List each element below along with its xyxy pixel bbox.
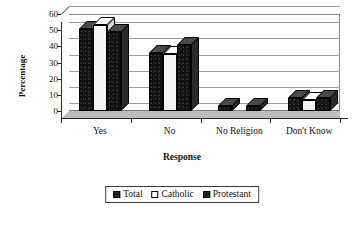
bar-protestant-don-t-know xyxy=(316,98,330,111)
bar-group xyxy=(79,25,121,111)
x-axis-tick-label: Yes xyxy=(93,126,107,137)
x-axis-tick-labels: YesNoNo ReligionDon't Know xyxy=(61,126,348,140)
y-axis-tick-labels: 0102030405060 xyxy=(36,10,58,124)
x-axis-tick-mark xyxy=(201,119,202,123)
plot-area xyxy=(61,14,340,119)
y-axis-tick-label: 30 xyxy=(36,58,58,67)
bar-total-no xyxy=(149,53,163,111)
x-axis-tick-mark xyxy=(270,119,271,123)
gridline xyxy=(69,6,340,7)
bar-group xyxy=(218,106,260,111)
bar-catholic-yes xyxy=(93,25,107,111)
legend-swatch-icon xyxy=(113,191,120,198)
bar-face xyxy=(316,98,330,111)
bar-face xyxy=(218,106,232,111)
legend-swatch-icon xyxy=(152,191,159,198)
bar-groups xyxy=(61,14,340,119)
bar-face xyxy=(107,32,121,111)
bar-group xyxy=(149,45,191,111)
legend-item: Catholic xyxy=(152,189,194,199)
bar-chart: Percentage 0102030405060 YesNoNo Religio… xyxy=(0,0,364,225)
bar-side xyxy=(191,37,199,111)
bar-protestant-yes xyxy=(107,32,121,111)
y-axis-tick-label: 20 xyxy=(36,74,58,83)
bar-total-don-t-know xyxy=(288,98,302,111)
bar-total-no-religion xyxy=(218,106,232,111)
x-axis-tick-label: Don't Know xyxy=(286,126,332,137)
x-axis-tick-mark xyxy=(61,119,62,123)
x-axis-tick-mark xyxy=(131,119,132,123)
bar-catholic-no-religion xyxy=(232,111,246,112)
bar-side xyxy=(121,24,129,111)
x-axis-title: Response xyxy=(0,152,364,162)
y-axis-tick-label: 60 xyxy=(36,10,58,19)
bar-face xyxy=(93,25,107,111)
y-axis-tick-label: 10 xyxy=(36,90,58,99)
bar-face xyxy=(79,29,93,111)
legend-item: Total xyxy=(113,189,142,199)
bar-catholic-don-t-know xyxy=(302,100,316,111)
bar-face xyxy=(288,98,302,111)
x-axis-tick-label: No Religion xyxy=(216,126,263,137)
bar-protestant-no xyxy=(177,45,191,111)
legend-label: Catholic xyxy=(162,189,194,199)
y-axis-title: Percentage xyxy=(14,36,30,116)
x-axis-tick-label: No xyxy=(164,126,176,137)
bar-protestant-no-religion xyxy=(246,106,260,111)
chart-legend: TotalCatholicProtestant xyxy=(105,186,259,203)
y-axis-tick-label: 50 xyxy=(36,26,58,35)
bar-face xyxy=(149,53,163,111)
bar-face xyxy=(177,45,191,111)
y-axis-tick-label: 40 xyxy=(36,42,58,51)
bar-face xyxy=(246,106,260,111)
y-axis-tick-label: 0 xyxy=(36,107,58,116)
x-axis-title-text: Response xyxy=(163,152,201,162)
bar-face xyxy=(163,54,177,111)
legend-swatch-icon xyxy=(203,191,210,198)
legend-item: Protestant xyxy=(203,189,251,199)
legend-label: Protestant xyxy=(213,189,251,199)
x-axis-tick-mark xyxy=(340,119,341,123)
bar-total-yes xyxy=(79,29,93,111)
legend-label: Total xyxy=(123,189,142,199)
bar-face xyxy=(302,100,316,111)
bar-group xyxy=(288,98,330,111)
bar-catholic-no xyxy=(163,54,177,111)
y-axis-title-text: Percentage xyxy=(17,55,27,97)
